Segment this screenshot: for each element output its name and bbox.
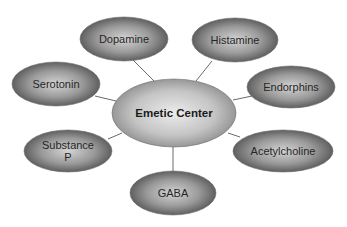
connector-histamine xyxy=(196,61,212,81)
node-dopamine: Dopamine xyxy=(80,17,168,61)
connector-acetylcholine xyxy=(228,133,240,137)
connector-endorphins xyxy=(233,96,252,100)
node-gaba: GABA xyxy=(130,171,216,215)
connector-substance-p xyxy=(108,133,122,139)
node-label-gaba: GABA xyxy=(158,187,189,199)
node-serotonin: Serotonin xyxy=(12,62,100,106)
node-histamine: Histamine xyxy=(192,18,278,62)
node-label-endorphins: Endorphins xyxy=(263,81,319,93)
node-label-acetylcholine: Acetylcholine xyxy=(251,145,316,157)
hub-node: Emetic Center xyxy=(112,79,236,147)
node-label-line: Serotonin xyxy=(32,78,79,90)
hub-label: Emetic Center xyxy=(135,107,213,119)
node-label-dopamine: Dopamine xyxy=(99,33,149,45)
node-label-line: Dopamine xyxy=(99,33,149,45)
node-label-line: P xyxy=(64,151,71,163)
node-label-line: GABA xyxy=(158,187,189,199)
emetic-center-diagram: Emetic Center DopamineHistamineSerotonin… xyxy=(0,0,347,227)
node-label-histamine: Histamine xyxy=(211,34,260,46)
node-label-line: Histamine xyxy=(211,34,260,46)
connector-serotonin xyxy=(95,96,116,101)
node-endorphins: Endorphins xyxy=(247,66,335,108)
node-label-line: Acetylcholine xyxy=(251,145,316,157)
node-label-line: Endorphins xyxy=(263,81,319,93)
node-substance-p: SubstanceP xyxy=(24,130,112,172)
node-label-serotonin: Serotonin xyxy=(32,78,79,90)
connector-dopamine xyxy=(133,60,154,81)
node-label-line: Substance xyxy=(42,139,94,151)
node-acetylcholine: Acetylcholine xyxy=(233,130,333,172)
